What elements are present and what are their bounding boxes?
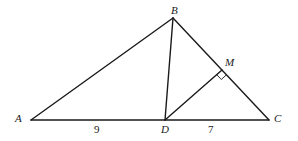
segment-dm: [165, 70, 222, 120]
segment-bc: [173, 18, 269, 120]
right-angle-marker: [217, 75, 227, 80]
label-d: D: [160, 123, 169, 135]
label-b: B: [171, 4, 178, 16]
length-dc: 7: [208, 123, 214, 135]
segment-bd: [165, 18, 173, 120]
label-c: C: [274, 112, 282, 124]
label-a: A: [14, 112, 22, 124]
label-m: M: [224, 56, 235, 68]
segment-ab: [31, 18, 173, 120]
length-ad: 9: [94, 123, 100, 135]
triangle-diagram: B A D C M 9 7: [0, 0, 298, 141]
